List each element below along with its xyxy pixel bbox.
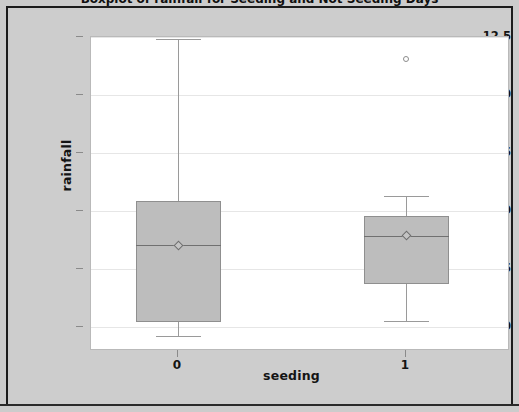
y-tick-mark-10-0 <box>76 94 83 95</box>
gridline-10-0 <box>91 95 508 96</box>
box-0-lower-whisker <box>178 322 179 336</box>
y-tick-mark-2-5 <box>76 268 83 269</box>
box-1-outlier-point <box>403 56 409 62</box>
gridline-12-5 <box>91 37 508 38</box>
box-0-iqr-box <box>136 201 221 322</box>
y-axis-label: rainfall <box>59 106 74 226</box>
box-1-upper-whisker-cap <box>384 196 429 197</box>
y-tick-mark-7-5 <box>76 152 83 153</box>
x-tick-mark-1 <box>405 350 406 357</box>
y-tick-mark-12-5 <box>76 36 83 37</box>
y-tick-mark-5-0 <box>76 210 83 211</box>
box-1-lower-whisker <box>406 284 407 321</box>
box-1-upper-whisker <box>406 196 407 216</box>
figure-frame: rainfall 12.5 10.0 7.5 5.0 2.5 0.0 <box>6 6 513 406</box>
plot-panel <box>90 36 509 350</box>
y-tick-mark-0-0 <box>76 326 83 327</box>
chart-screenshot: Boxplot of rainfall for Seeding and Not … <box>0 0 519 412</box>
gridline-7-5 <box>91 153 508 154</box>
page-bottom-rule <box>0 404 519 406</box>
box-1-iqr-box <box>364 216 449 284</box>
x-tick-mark-0 <box>177 350 178 357</box>
box-0-upper-whisker-cap <box>156 39 201 40</box>
box-0-lower-whisker-cap <box>156 336 201 337</box>
gridline-0-0 <box>91 327 508 328</box>
x-axis-label: seeding <box>82 368 501 383</box>
box-1-lower-whisker-cap <box>384 321 429 322</box>
box-0-upper-whisker <box>178 39 179 201</box>
